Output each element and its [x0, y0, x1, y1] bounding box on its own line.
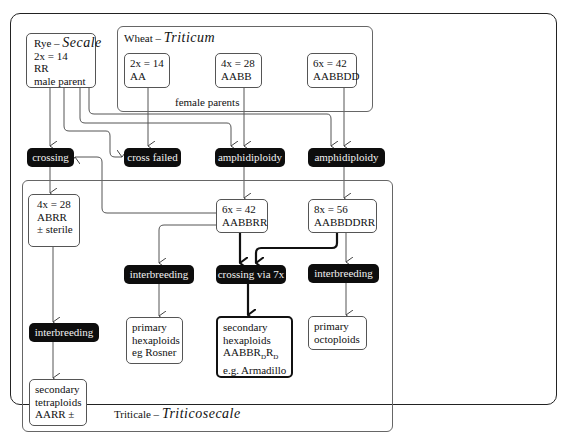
- primary-hexaploids-box: primary hexaploids eg Rosner: [126, 317, 183, 364]
- genome: AABBRR: [222, 216, 262, 229]
- ploidy: 6x = 42: [222, 203, 262, 216]
- rye-role: male parent: [34, 75, 88, 88]
- line: primary: [132, 321, 177, 334]
- rye-genome: RR: [34, 62, 88, 75]
- ploidy: 8x = 56: [314, 203, 371, 216]
- example-line: e.g. Armadillo: [223, 364, 286, 377]
- wheat-title: Wheat – Triticum: [124, 30, 215, 46]
- wheat-tetraploid-box: 4x = 28 AABB: [215, 53, 262, 88]
- secondary-tetraploids-box: secondary tetraploids AARR ±: [29, 379, 87, 426]
- wheat-hexaploid-box: 6x = 42 AABBDD: [307, 53, 357, 88]
- secondary-hexaploids-box: secondary hexaploids AABBRDRD e.g. Armad…: [216, 316, 293, 378]
- line: AARR ±: [35, 408, 81, 421]
- genome: AABBDDRR: [314, 216, 371, 229]
- genome: AA: [130, 70, 164, 83]
- amphidiploidy-step-2: amphidiploidy: [308, 148, 385, 167]
- aabbrr-box: 6x = 42 AABBRR: [216, 199, 268, 233]
- abrr-box: 4x = 28 ABRR ± sterile: [28, 194, 80, 247]
- cross-failed-step: cross failed: [124, 148, 181, 167]
- ploidy: 4x = 28: [37, 198, 71, 211]
- line: hexaploids: [132, 334, 177, 347]
- line: secondary: [35, 383, 81, 396]
- rye-box: Rye – Secale 2x = 14 RR male parent: [26, 33, 96, 88]
- genome: AABBDD: [313, 70, 351, 83]
- female-parents-label: female parents: [175, 96, 239, 108]
- rye-title: Rye – Secale: [34, 37, 88, 50]
- fertility: ± sterile: [37, 223, 71, 236]
- ploidy: 6x = 42: [313, 57, 351, 70]
- genome: ABRR: [37, 211, 71, 224]
- interbreeding-step-left: interbreeding: [29, 323, 99, 342]
- ploidy: 4x = 28: [221, 57, 256, 70]
- wheat-diploid-box: 2x = 14 AA: [124, 53, 170, 88]
- line: octoploids: [314, 333, 361, 346]
- genome: AABB: [221, 70, 256, 83]
- triticale-title: Triticale – Triticosecale: [114, 406, 241, 422]
- ploidy: 2x = 14: [130, 57, 164, 70]
- primary-octoploids-box: primary octoploids: [308, 316, 367, 350]
- amphidiploidy-step-1: amphidiploidy: [215, 148, 285, 167]
- line: tetraploids: [35, 396, 81, 409]
- interbreeding-step-right: interbreeding: [308, 264, 379, 283]
- crossing-step: crossing: [27, 148, 74, 167]
- line: primary: [314, 320, 361, 333]
- line: secondary: [223, 321, 286, 334]
- line: eg Rosner: [132, 346, 177, 359]
- aabbddrr-box: 8x = 56 AABBDDRR: [308, 199, 377, 233]
- interbreeding-step-mid: interbreeding: [124, 265, 194, 284]
- crossing-via-7x-step: crossing via 7x: [216, 265, 286, 284]
- genome-line: AABBRDRD: [223, 346, 286, 364]
- rye-chromosomes: 2x = 14: [34, 50, 88, 63]
- line: hexaploids: [223, 334, 286, 347]
